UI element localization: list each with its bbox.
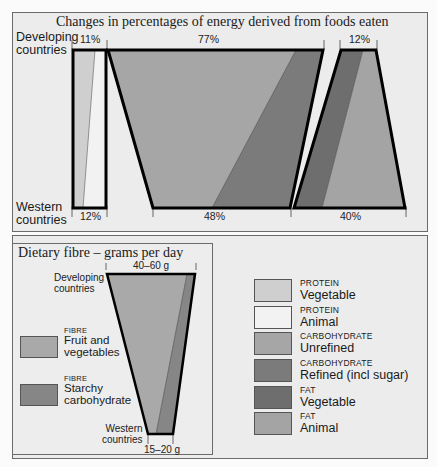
protein-vegetable-swatch <box>254 279 292 302</box>
fibre-top-value: 40–60 g <box>133 260 169 271</box>
fibre-developing-label: Developing countries <box>54 272 104 294</box>
energy-legend: PROTEIN Vegetable PROTEIN Animal CARBOHY… <box>254 278 424 448</box>
fat-animal-swatch <box>254 412 292 435</box>
carb-refined-swatch <box>254 359 292 382</box>
carbohydrate-band <box>108 50 323 208</box>
fibre-starchy-swatch <box>20 384 58 406</box>
protein-band <box>73 50 106 208</box>
protein-animal-swatch <box>254 306 292 329</box>
fat-vegetable-swatch <box>254 386 292 409</box>
fibre-fruit-swatch <box>20 336 58 358</box>
fibre-bottom-value: 15–20 g <box>144 444 180 455</box>
fibre-legend: FIBRE Fruit and vegetables FIBRE Starchy… <box>20 330 130 430</box>
carb-unrefined-swatch <box>254 332 292 355</box>
fibre-chart-title: Dietary fibre – grams per day <box>18 245 183 261</box>
